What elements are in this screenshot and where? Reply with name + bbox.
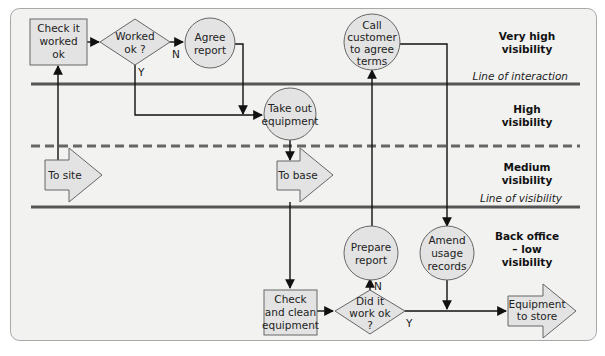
service-blueprint-diagram: Line of interaction Line of visibility V… xyxy=(0,0,605,356)
svg-text:ok ?: ok ? xyxy=(124,43,145,55)
svg-text:Medium: Medium xyxy=(503,161,550,173)
svg-text:worked: worked xyxy=(39,35,77,47)
svg-text:report: report xyxy=(194,44,226,56)
did-no-label: N xyxy=(374,280,382,292)
svg-text:customer: customer xyxy=(347,31,397,43)
svg-text:records: records xyxy=(427,260,466,272)
node-check-it-worked-ok: Check it worked ok xyxy=(30,19,87,65)
svg-text:visibility: visibility xyxy=(502,116,553,128)
zone-medium-label: Medium visibility xyxy=(502,161,553,186)
node-call-customer: Call customer to agree terms xyxy=(344,14,400,70)
svg-text:Equipment: Equipment xyxy=(509,298,566,310)
node-check-and-clean-equipment: Check and clean equipment xyxy=(262,290,319,335)
line-of-interaction-label: Line of interaction xyxy=(473,70,568,82)
node-prepare-report: Prepare report xyxy=(344,226,398,280)
svg-text:Worked: Worked xyxy=(115,30,154,42)
svg-text:to store: to store xyxy=(517,310,557,322)
svg-text:Check it: Check it xyxy=(37,22,80,34)
svg-text:ok: ok xyxy=(52,48,65,60)
svg-text:Did it: Did it xyxy=(356,295,384,307)
svg-text:Back office: Back office xyxy=(495,230,559,242)
svg-text:Amend: Amend xyxy=(428,234,465,246)
svg-text:Agree: Agree xyxy=(195,31,226,43)
node-agree-report: Agree report xyxy=(185,18,235,68)
svg-text:– low: – low xyxy=(512,243,542,255)
did-yes-label: Y xyxy=(405,317,413,329)
svg-text:Very high: Very high xyxy=(499,30,555,42)
svg-text:To base: To base xyxy=(277,169,317,181)
svg-text:and clean: and clean xyxy=(265,306,316,318)
svg-text:visibility: visibility xyxy=(502,256,553,268)
node-amend-usage-records: Amend usage records xyxy=(420,226,474,280)
svg-text:work ok: work ok xyxy=(349,307,391,319)
svg-text:Prepare: Prepare xyxy=(351,241,391,253)
svg-text:Take out: Take out xyxy=(267,102,312,114)
zone-very-high-label: Very high visibility xyxy=(499,30,555,55)
svg-text:to agree: to agree xyxy=(350,43,394,55)
svg-text:Check: Check xyxy=(274,293,307,305)
line-of-visibility-label: Line of visibility xyxy=(480,192,563,204)
worked-yes-label: Y xyxy=(137,66,145,78)
svg-text:terms: terms xyxy=(357,55,387,67)
svg-text:To site: To site xyxy=(47,169,81,181)
svg-text:equipment: equipment xyxy=(262,319,319,331)
svg-text:report: report xyxy=(355,254,387,266)
svg-text:?: ? xyxy=(367,319,373,331)
svg-text:usage: usage xyxy=(431,247,463,259)
svg-text:equipment: equipment xyxy=(262,115,319,127)
svg-text:visibility: visibility xyxy=(502,174,553,186)
worked-no-label: N xyxy=(172,48,180,60)
svg-text:Call: Call xyxy=(362,19,382,31)
svg-text:High: High xyxy=(513,103,540,115)
svg-text:visibility: visibility xyxy=(502,43,553,55)
